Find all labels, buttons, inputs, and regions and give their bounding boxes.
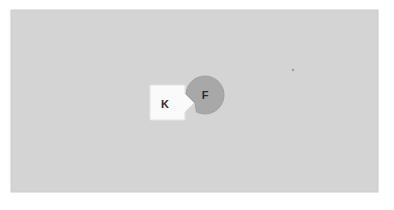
diagram-canvas: K F [0,0,394,210]
diagram-stage: K F [0,0,394,210]
dot-marker [292,69,294,71]
